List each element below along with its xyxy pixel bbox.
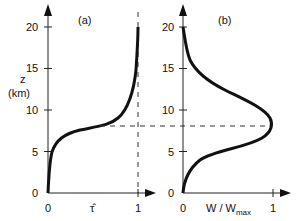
w-curve: [183, 27, 271, 193]
xtick-1: 1: [135, 202, 141, 214]
ytick-20: 20: [26, 21, 38, 33]
figure: (a) z (km) 20 15 10 5 0 0 τ̂ 1 (b) 20 15…: [0, 0, 296, 221]
arrow-right-icon: [145, 189, 156, 197]
z-label: z: [20, 73, 26, 85]
ytick-20: 20: [162, 21, 174, 33]
xtick-0: 0: [45, 202, 51, 214]
xtick-1: 1: [270, 202, 276, 214]
x-label-w: W / Wmax: [206, 202, 251, 217]
tau-curve: [48, 27, 138, 193]
km-label: (km): [8, 87, 30, 99]
panel-b: (b) 20 15 10 5 0 0 W / Wmax 1: [162, 4, 291, 217]
ytick-15: 15: [162, 62, 174, 74]
panel-a: (a) z (km) 20 15 10 5 0 0 τ̂ 1: [8, 4, 156, 214]
ytick-0: 0: [32, 187, 38, 199]
arrow-up-icon: [179, 4, 187, 16]
ytick-0: 0: [168, 187, 174, 199]
panel-b-label: (b): [218, 14, 231, 26]
panel-a-label: (a): [78, 14, 91, 26]
arrow-right-icon: [280, 189, 291, 197]
ytick-5: 5: [32, 146, 38, 158]
ytick-15: 15: [26, 62, 38, 74]
arrow-up-icon: [44, 4, 52, 16]
ytick-10: 10: [162, 104, 174, 116]
ytick-5: 5: [168, 146, 174, 158]
xtick-0: 0: [180, 202, 186, 214]
ytick-10: 10: [26, 104, 38, 116]
x-label-tau: τ̂: [90, 202, 96, 214]
